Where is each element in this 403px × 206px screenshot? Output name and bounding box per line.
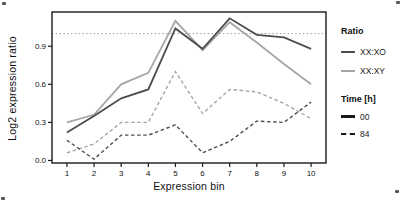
legend-item-xxxy: XX:XY bbox=[341, 61, 403, 80]
xxxo-line-swatch-icon bbox=[341, 51, 355, 53]
legend-item-xxxo: XX:XO bbox=[341, 42, 403, 61]
corner-artifact bbox=[395, 190, 399, 193]
x-tick-label: 9 bbox=[282, 169, 287, 178]
y-tick-label: 0.6 bbox=[35, 80, 47, 89]
y-tick-label: 0.0 bbox=[35, 156, 47, 165]
x-tick-label: 3 bbox=[119, 169, 124, 178]
solid-line-swatch-icon bbox=[341, 115, 355, 118]
x-axis-title: Expression bin bbox=[52, 180, 326, 192]
xxxy-line-swatch-icon bbox=[341, 70, 355, 72]
x-tick-label: 7 bbox=[227, 169, 232, 178]
legend-time-header: Time [h] bbox=[341, 93, 403, 105]
y-tick-label: 0.3 bbox=[35, 118, 47, 127]
dashed-line-swatch-icon bbox=[341, 133, 355, 135]
corner-artifact bbox=[396, 1, 400, 4]
legend: Ratio XX:XO XX:XY Time [h] 00 84 bbox=[341, 25, 403, 142]
legend-item-label: XX:XO bbox=[360, 47, 386, 57]
legend-item-time-84: 84 bbox=[341, 125, 403, 142]
legend-item-label: XX:XY bbox=[360, 66, 385, 76]
corner-artifact bbox=[1, 197, 5, 200]
legend-item-time-00: 00 bbox=[341, 108, 403, 125]
legend-item-label: 00 bbox=[360, 112, 369, 122]
legend-ratio-header: Ratio bbox=[341, 25, 403, 37]
legend-item-label: 84 bbox=[360, 129, 369, 139]
x-tick-label: 10 bbox=[307, 169, 316, 178]
x-tick-label: 4 bbox=[146, 169, 151, 178]
x-tick-label: 5 bbox=[173, 169, 178, 178]
x-tick-label: 2 bbox=[92, 169, 97, 178]
x-tick-label: 1 bbox=[65, 169, 70, 178]
series-line-xxxy-t84 bbox=[67, 72, 311, 153]
expression-ratio-figure: 123456789100.00.30.60.9 Log2 expression … bbox=[0, 0, 403, 206]
x-tick-label: 8 bbox=[255, 169, 260, 178]
y-tick-label: 0.9 bbox=[35, 42, 47, 51]
y-axis-title: Log2 expression ratio bbox=[6, 9, 21, 169]
corner-artifact bbox=[2, 2, 6, 5]
x-tick-label: 6 bbox=[200, 169, 205, 178]
